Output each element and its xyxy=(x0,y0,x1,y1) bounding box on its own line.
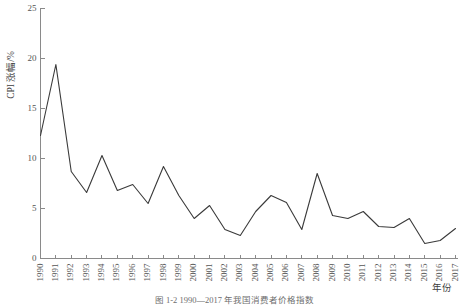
x-axis-title: 年份 xyxy=(432,282,452,293)
x-tick-label: 2017 xyxy=(450,263,460,282)
x-tick-label: 2012 xyxy=(373,264,383,282)
x-tick-label: 2014 xyxy=(403,263,413,282)
x-tick-label: 2013 xyxy=(388,263,398,282)
x-tick-label: 2008 xyxy=(311,263,321,282)
x-tick-label: 2010 xyxy=(342,263,352,282)
x-tick-label: 1997 xyxy=(142,263,152,282)
x-tick-label: 2011 xyxy=(357,264,367,282)
x-tick-label: 1991 xyxy=(50,264,60,282)
x-tick-label: 1994 xyxy=(96,263,106,282)
y-tick-label: 0 xyxy=(32,253,37,263)
x-tick-label: 2006 xyxy=(280,263,290,282)
x-tick-label: 1998 xyxy=(158,263,168,282)
cpi-line xyxy=(41,65,456,244)
x-tick-label: 2005 xyxy=(265,263,275,282)
x-tick-label: 2003 xyxy=(234,263,244,282)
y-tick-label: 20 xyxy=(28,53,38,63)
x-tick-label: 2001 xyxy=(204,264,214,282)
x-tick-label: 2016 xyxy=(434,263,444,282)
x-tick-label: 1992 xyxy=(65,264,75,282)
x-tick-label: 1999 xyxy=(173,263,183,282)
x-tick-label: 2000 xyxy=(188,263,198,282)
y-tick-label: 5 xyxy=(32,203,37,213)
x-tick-label: 1995 xyxy=(111,263,121,282)
x-tick-label: 2007 xyxy=(296,263,306,282)
y-axis: 0510152025 xyxy=(28,3,45,263)
data-series xyxy=(41,65,456,244)
figure-caption: 图 1-2 1990—2017 年我国消费者价格指数 xyxy=(0,293,469,305)
x-tick-label: 2009 xyxy=(327,263,337,282)
y-tick-label: 15 xyxy=(28,103,38,113)
x-tick-label: 1996 xyxy=(127,263,137,282)
x-tick-label: 2004 xyxy=(250,263,260,282)
x-tick-label: 2015 xyxy=(419,263,429,282)
x-tick-label: 1993 xyxy=(81,263,91,282)
figure-container: 0510152025 19901991199219931994199519961… xyxy=(0,0,469,306)
line-chart: 0510152025 19901991199219931994199519961… xyxy=(0,0,469,306)
x-tick-label: 2002 xyxy=(219,264,229,282)
x-tick-label: 1990 xyxy=(35,263,45,282)
x-axis: 1990199119921993199419951996199719981999… xyxy=(35,255,460,282)
y-tick-label: 10 xyxy=(28,153,38,163)
y-tick-label: 25 xyxy=(28,3,38,13)
y-axis-title: CPI 涨幅/% xyxy=(5,51,16,99)
